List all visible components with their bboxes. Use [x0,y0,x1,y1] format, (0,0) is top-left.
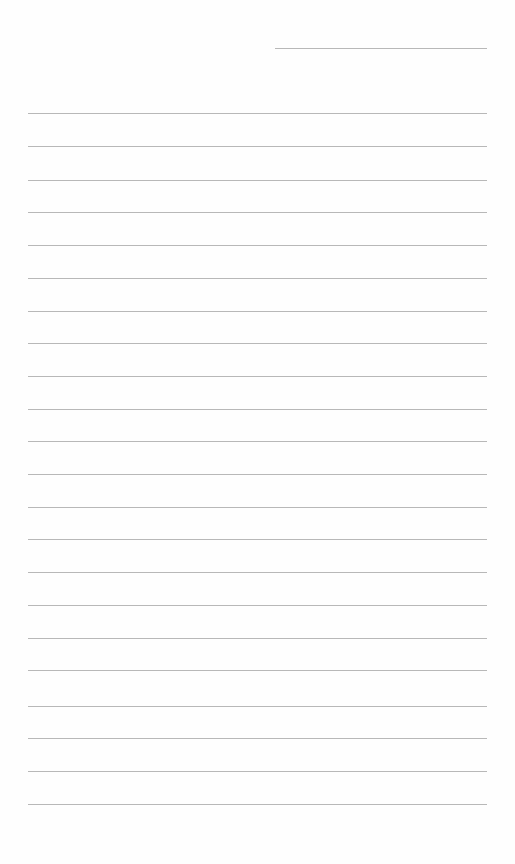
rule-line [28,113,487,114]
rule-line [28,278,487,279]
rule-line [28,311,487,312]
rule-line [28,638,487,639]
rule-line [28,146,487,147]
rule-line [28,804,487,805]
rule-line [28,245,487,246]
rule-line [28,771,487,772]
rule-line [28,539,487,540]
rule-line [28,706,487,707]
rule-line [28,409,487,410]
rule-line [28,180,487,181]
rule-line [28,738,487,739]
rule-line [28,212,487,213]
header-line [275,48,487,49]
rule-line [28,343,487,344]
lined-paper-page [0,0,515,864]
rule-line [28,507,487,508]
rule-line [28,670,487,671]
rule-line [28,605,487,606]
rule-line [28,376,487,377]
rule-line [28,474,487,475]
rule-line [28,572,487,573]
rule-line [28,441,487,442]
